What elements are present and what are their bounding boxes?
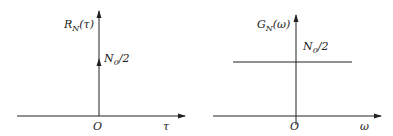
impulse-weight-label: N0/2	[103, 52, 129, 67]
diagram-svg: RN(τ) N0/2 O τ GN(ω) N0/2 O ω	[0, 0, 393, 136]
white-noise-diagram: RN(τ) N0/2 O τ GN(ω) N0/2 O ω	[0, 0, 393, 136]
right-x-axis-label: ω	[360, 120, 369, 133]
right-origin-label: O	[290, 120, 299, 133]
impulse-arrowhead-icon	[97, 58, 102, 66]
right-y-axis-label: GN(ω)	[257, 18, 290, 33]
left-y-axis-label: RN(τ)	[63, 18, 94, 33]
left-origin-label: O	[93, 120, 102, 133]
left-x-axis-label: τ	[163, 120, 170, 133]
left-plot-autocorrelation: RN(τ) N0/2 O τ	[17, 11, 185, 133]
right-plot-psd: GN(ω) N0/2 O ω	[213, 15, 381, 133]
psd-level-label: N0/2	[302, 40, 328, 55]
